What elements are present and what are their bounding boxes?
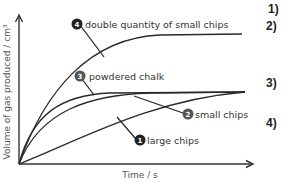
- label-small-chips: small chips: [195, 109, 248, 120]
- y-axis-title: Volume of gas produced / cm³: [2, 24, 12, 159]
- label-double-quantity: double quantity of small chips: [85, 19, 228, 30]
- reaction-rate-chart: Time / s Volume of gas produced / cm³ 4 …: [0, 0, 287, 183]
- curve-powdered-chalk: [19, 92, 245, 164]
- curves: [19, 34, 245, 164]
- label-powdered-chalk: powdered chalk: [89, 71, 165, 82]
- question-number-1: 1): [268, 2, 279, 16]
- curve-large-chips: [19, 92, 245, 164]
- question-number-4: 4): [266, 116, 277, 130]
- annotation-powdered-chalk: 3 powdered chalk: [75, 71, 165, 82]
- label-large-chips: large chips: [147, 135, 199, 146]
- question-number-2: 2): [266, 19, 277, 33]
- annotation-large-chips: 1 large chips: [135, 135, 200, 146]
- annotation-double-quantity: 4 double quantity of small chips: [72, 19, 229, 30]
- question-number-3: 3): [266, 76, 277, 90]
- leader-lines: [80, 25, 183, 138]
- curve-double-small-chips: [19, 34, 242, 164]
- annotation-small-chips: 2 small chips: [183, 109, 249, 120]
- question-numbers: 1) 2) 3) 4): [266, 2, 279, 130]
- leader-4: [80, 25, 104, 57]
- curve-small-chips: [19, 92, 245, 164]
- x-axis-title: Time / s: [121, 170, 158, 180]
- badge-1-number: 1: [138, 137, 143, 145]
- badge-4-number: 4: [75, 21, 80, 29]
- badge-3-number: 3: [78, 73, 83, 81]
- badge-2-number: 2: [186, 111, 191, 119]
